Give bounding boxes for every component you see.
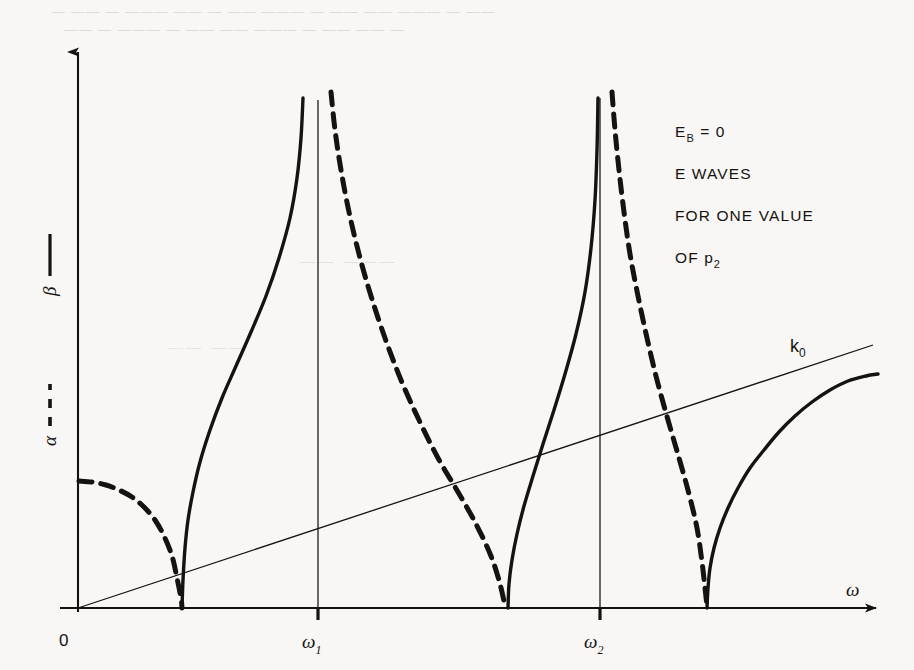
annotation-line-4: OF p2 [675,249,721,270]
x-tick-group [318,608,600,620]
beta-curve-group [182,98,878,608]
annotation-line-4-text: OF p [675,249,714,266]
beta-branch-2 [508,98,598,608]
annotation-line-1: EB = 0 [675,123,726,144]
beta-branch-1 [182,98,303,608]
axes-group [60,52,876,612]
y-legend-beta-symbol: β [39,286,60,297]
alpha-curve-group [79,92,707,608]
y-legend-alpha-symbol: α [39,435,60,446]
alpha-branch-0 [79,481,182,608]
svg-text:ω1: ω1 [302,631,321,657]
annotation-line-1-text: E [675,123,686,140]
annotation-block: EB = 0 E WAVES FOR ONE VALUE OF p2 [675,123,814,270]
figure-canvas: — —— — ——— —— — —— ——— — —— —— ——— — —— … [0,0,914,670]
y-axis-legend-group: β α [39,234,60,446]
x-tick-labels: ω1 ω2 [302,631,603,657]
x-tick-label-1-symbol: ω [302,631,315,652]
annotation-line-1-subscript: B [686,132,694,144]
origin-label: 0 [59,631,68,650]
beta-branch-3 [707,374,878,608]
annotation-line-3: FOR ONE VALUE [675,207,814,224]
x-tick-label-2-subscript: 2 [597,643,603,657]
x-tick-label-1-subscript: 1 [315,643,321,657]
x-axis-label: ω [846,579,859,600]
alpha-branch-1 [331,92,505,606]
x-tick-label-2-symbol: ω [584,631,597,652]
k0-label-subscript: 0 [799,346,806,360]
svg-text:ω2: ω2 [584,631,603,657]
asymptote-group [318,98,600,608]
annotation-line-2: E WAVES [675,165,752,182]
annotation-line-1-tail: = 0 [695,123,726,140]
k0-line-label: k0 [790,336,806,360]
annotation-line-4-subscript: 2 [714,258,721,270]
dispersion-diagram: 0 ω1 ω2 ω β α k0 [0,0,914,670]
